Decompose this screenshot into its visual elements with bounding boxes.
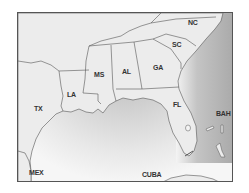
label-nc: NC <box>188 19 198 26</box>
label-tx: TX <box>34 105 43 112</box>
label-ms: MS <box>94 71 104 78</box>
label-cuba: CUBA <box>142 171 161 178</box>
label-la: LA <box>67 91 76 98</box>
label-ga: GA <box>153 64 163 71</box>
label-bah: BAH <box>216 110 231 117</box>
label-sc: SC <box>172 41 181 48</box>
label-al: AL <box>122 68 131 75</box>
label-fl: FL <box>173 101 181 108</box>
map-frame: NC SC GA AL MS LA TX FL BAH MEX CUBA <box>17 12 233 182</box>
map-graphic <box>18 13 233 182</box>
lake-okeechobee <box>186 125 191 131</box>
label-mex: MEX <box>29 169 44 176</box>
